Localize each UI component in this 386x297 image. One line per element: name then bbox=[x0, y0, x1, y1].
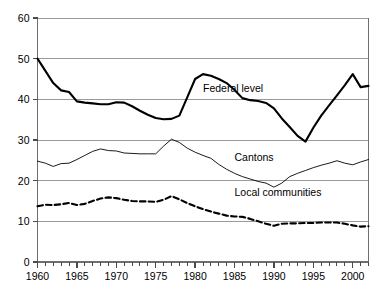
y-axis-tick-label-30: 30 bbox=[0, 135, 30, 146]
series-label-federal-level: Federal level bbox=[203, 83, 263, 94]
x-axis-tick-label-1980: 1980 bbox=[175, 271, 215, 282]
y-axis-tick-label-10: 10 bbox=[0, 216, 30, 227]
y-axis-tick-label-60: 60 bbox=[0, 13, 30, 24]
y-axis-tick-label-40: 40 bbox=[0, 94, 30, 105]
y-axis-tick-label-20: 20 bbox=[0, 176, 30, 187]
x-axis-tick-label-1970: 1970 bbox=[96, 271, 136, 282]
x-axis-tick-label-1965: 1965 bbox=[57, 271, 97, 282]
x-axis-tick-label-1985: 1985 bbox=[215, 271, 255, 282]
series-label-cantons: Cantons bbox=[235, 152, 274, 163]
y-axis-tick-label-50: 50 bbox=[0, 54, 30, 65]
y-axis-tick-label-0: 0 bbox=[0, 257, 30, 268]
x-axis-tick-label-2000: 2000 bbox=[333, 271, 373, 282]
x-axis-tick-label-1995: 1995 bbox=[293, 271, 333, 282]
x-axis-tick-label-1975: 1975 bbox=[136, 271, 176, 282]
x-axis-tick-label-1960: 1960 bbox=[18, 271, 58, 282]
chart-container: 6050403020100 19601965197019751980198519… bbox=[0, 0, 386, 297]
x-axis-tick-label-1990: 1990 bbox=[254, 271, 294, 282]
x-tick-marks bbox=[38, 262, 369, 268]
line-chart-plot bbox=[0, 0, 386, 297]
series-label-local-communities: Local communities bbox=[235, 187, 322, 198]
